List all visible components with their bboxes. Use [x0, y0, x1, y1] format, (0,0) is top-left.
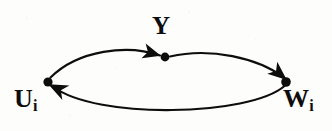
- node-dot-u[interactable]: [43, 77, 52, 86]
- edge-w-to-u: [53, 86, 285, 110]
- node-label-w-base: W: [283, 84, 309, 113]
- arrowhead-into-y-icon: [141, 44, 162, 64]
- node-label-u: Ui: [14, 86, 37, 112]
- node-dot-y[interactable]: [161, 53, 170, 62]
- arrowhead-group: [45, 44, 292, 100]
- figure-canvas: Ui Y Wi: [0, 0, 332, 131]
- node-label-w-subscript: i: [309, 97, 313, 114]
- edge-u-to-y: [51, 50, 161, 78]
- node-label-u-base: U: [14, 84, 33, 113]
- node-label-w: Wi: [283, 86, 313, 112]
- node-label-u-subscript: i: [33, 97, 37, 114]
- node-label-y: Y: [152, 13, 170, 38]
- node-label-y-base: Y: [152, 12, 170, 39]
- edge-y-to-w: [170, 53, 284, 77]
